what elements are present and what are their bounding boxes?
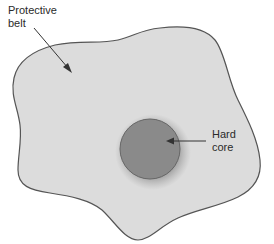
- hard-core-circle: [120, 119, 180, 179]
- hard-core-label: Hard core: [212, 128, 236, 154]
- protective-belt-label: Protective belt: [8, 4, 57, 30]
- protective-belt-label-line1: Protective: [8, 4, 57, 17]
- hard-core-label-line1: Hard: [212, 128, 236, 141]
- diagram-canvas: [0, 0, 274, 244]
- protective-belt-label-line2: belt: [8, 17, 57, 30]
- hard-core-label-line2: core: [212, 141, 236, 154]
